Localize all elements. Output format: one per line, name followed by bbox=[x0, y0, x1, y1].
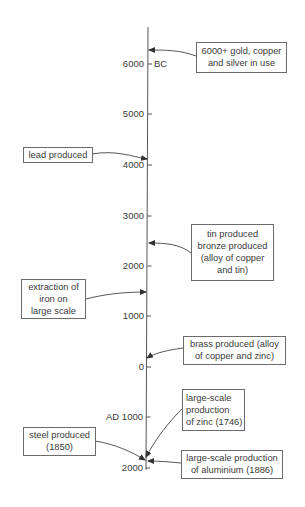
arrow-tin bbox=[149, 243, 191, 253]
arrow-steel bbox=[95, 441, 145, 460]
event-text: lead produced bbox=[27, 149, 89, 161]
event-text: of aluminium (1886) bbox=[185, 464, 279, 476]
event-box-brass: brass produced (alloy of copper and zinc… bbox=[183, 336, 286, 365]
event-text: bronze produced bbox=[195, 240, 270, 252]
event-text: 6000+ gold, copper bbox=[200, 45, 283, 57]
event-box-steel: steel produced (1850) bbox=[23, 427, 96, 456]
event-text: large-scale production bbox=[185, 452, 279, 464]
event-text: steel produced bbox=[27, 429, 92, 441]
event-box-gold-copper-silver: 6000+ gold, copper and silver in use bbox=[196, 42, 287, 73]
event-text: of copper and zinc) bbox=[187, 350, 282, 362]
event-box-zinc: large-scale production of zinc (1746) bbox=[182, 389, 245, 431]
event-text: of zinc (1746) bbox=[186, 416, 241, 428]
event-text: (1850) bbox=[27, 441, 92, 453]
metal-timeline-diagram: 6000 BC 5000 4000 3000 2000 1000 0 AD 10… bbox=[0, 0, 305, 507]
event-text: and tin) bbox=[195, 264, 270, 276]
event-text: extraction of bbox=[25, 281, 82, 293]
event-text: production bbox=[186, 404, 241, 416]
timeline-axis bbox=[146, 27, 148, 470]
tick-label-ad2000: 2000 bbox=[110, 463, 143, 473]
event-text: brass produced (alloy bbox=[187, 338, 282, 350]
event-box-lead: lead produced bbox=[23, 147, 93, 163]
tick-label-0: 0 bbox=[110, 362, 144, 372]
arrow-brass bbox=[147, 348, 183, 358]
event-box-iron: extraction of iron on large scale bbox=[21, 279, 86, 319]
arrow-zinc bbox=[146, 407, 184, 457]
tick-label-4000bc: 4000 bbox=[110, 160, 144, 170]
event-text: large scale bbox=[25, 305, 82, 317]
arrow-iron bbox=[86, 292, 146, 299]
event-text: large-scale bbox=[186, 392, 241, 404]
event-box-aluminium: large-scale production of aluminium (188… bbox=[181, 450, 283, 479]
tick-label-5000bc: 5000 bbox=[110, 109, 144, 119]
event-text: iron on bbox=[25, 293, 82, 305]
arrow-gold bbox=[149, 50, 196, 56]
event-box-tin-bronze: tin produced bronze produced (alloy of c… bbox=[191, 224, 274, 281]
event-text: (alloy of copper bbox=[195, 252, 270, 264]
tick-label-2000bc: 2000 bbox=[110, 261, 144, 271]
era-label-bc: BC bbox=[154, 59, 167, 69]
event-text: and silver in use bbox=[200, 57, 283, 69]
event-text: tin produced bbox=[195, 228, 270, 240]
arrow-aluminium bbox=[148, 461, 181, 463]
tick-label-6000bc: 6000 bbox=[110, 59, 144, 69]
tick-label-3000bc: 3000 bbox=[110, 211, 144, 221]
tick-label-ad1000: AD 1000 bbox=[94, 412, 143, 422]
tick-label-1000bc: 1000 bbox=[110, 311, 144, 321]
